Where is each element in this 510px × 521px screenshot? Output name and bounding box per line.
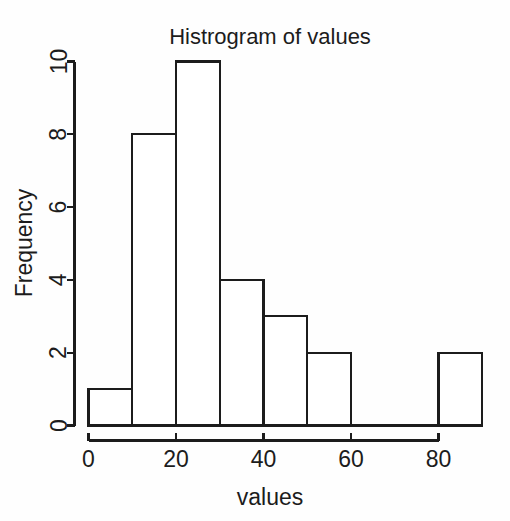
x-axis-tick-label: 20: [163, 446, 189, 472]
histogram-plot: Histrogram of values 0246810 020406080 v…: [0, 0, 510, 521]
page-title: Histrogram of values: [169, 24, 371, 49]
y-axis: 0246810: [46, 49, 75, 432]
x-axis-tick-label: 80: [426, 446, 452, 472]
y-axis-title: Frequency: [11, 188, 37, 297]
histogram-bar: [176, 62, 220, 426]
x-axis-tick-label: 60: [338, 446, 364, 472]
x-axis: 020406080: [82, 433, 451, 472]
histogram-bar: [220, 280, 264, 426]
y-axis-tick-label: 0: [46, 419, 72, 432]
histogram-bar: [132, 134, 176, 425]
bars-group: [89, 62, 483, 426]
x-axis-tick-label: 40: [251, 446, 277, 472]
y-axis-tick-label: 8: [46, 128, 72, 141]
x-axis-tick-label: 0: [82, 446, 95, 472]
histogram-bar: [264, 316, 308, 425]
histogram-bar: [439, 353, 483, 426]
y-axis-tick-label: 6: [46, 201, 72, 214]
x-axis-title: values: [237, 484, 303, 510]
histogram-figure: Histrogram of values 0246810 020406080 v…: [0, 0, 510, 521]
histogram-bar: [307, 353, 351, 426]
y-axis-tick-label: 4: [46, 273, 72, 286]
y-axis-tick-label: 2: [46, 346, 72, 359]
histogram-bar: [89, 389, 133, 425]
y-axis-tick-label: 10: [46, 49, 72, 75]
